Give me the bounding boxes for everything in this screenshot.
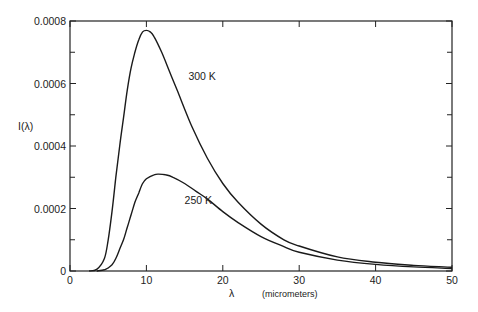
series-group: [89, 30, 452, 271]
plot-area-border: [70, 21, 452, 271]
series-annotation: 250 K: [185, 194, 212, 206]
x-tick-label: 20: [217, 274, 229, 286]
y-tick-label: 0.0004: [34, 140, 66, 152]
blackbody-radiation-chart: 00.00020.00040.00060.0008 01020304050 30…: [0, 0, 478, 312]
series-line-300k: [89, 30, 452, 271]
y-axis: 00.00020.00040.00060.0008: [34, 15, 452, 277]
series-annotation: 300 K: [188, 70, 215, 82]
y-tick-label: 0.0008: [34, 15, 66, 27]
series-line-250k: [97, 174, 452, 271]
series-labels: 300 K250 K: [185, 70, 216, 205]
y-tick-label: 0: [60, 265, 66, 277]
x-axis-unit-label: (micrometers): [262, 289, 318, 299]
y-axis-label: I(λ): [18, 120, 33, 132]
x-tick-label: 50: [446, 274, 458, 286]
x-tick-label: 30: [293, 274, 305, 286]
plot-frame: [70, 21, 452, 271]
x-axis-label: λ: [229, 287, 235, 299]
x-tick-label: 40: [370, 274, 382, 286]
x-axis: 01020304050: [67, 21, 458, 286]
x-tick-label: 10: [141, 274, 153, 286]
y-tick-label: 0.0006: [34, 78, 66, 90]
y-tick-label: 0.0002: [34, 203, 66, 215]
x-tick-label: 0: [67, 274, 73, 286]
